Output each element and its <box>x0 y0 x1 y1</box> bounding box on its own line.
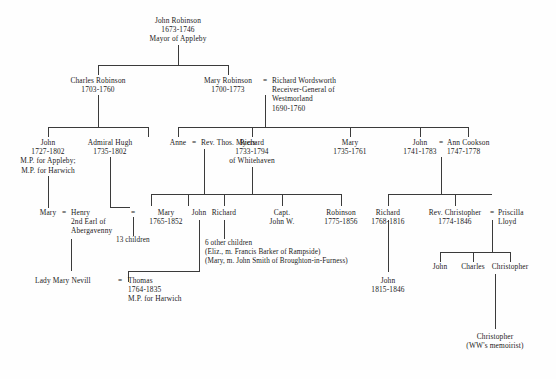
node-line: Admiral Hugh <box>88 138 133 147</box>
node-john-1741: John 1741-1783 <box>403 138 436 156</box>
connector-vertical <box>388 194 389 206</box>
connector-horizontal <box>98 65 229 66</box>
connector-vertical <box>440 252 441 262</box>
node-ann-cookson: Ann Cookson 1747-1778 <box>447 138 490 156</box>
node-line: 1741-1783 <box>403 147 436 156</box>
node-line: Thomas <box>128 276 182 285</box>
node-mary-1735: Mary 1735-1761 <box>333 138 366 156</box>
connector-vertical <box>350 127 351 137</box>
connector-vertical <box>48 176 49 208</box>
node-henry-abergavenny: Henry 2nd Earl of Abergavenny <box>71 208 112 236</box>
node-charles-c: Charles <box>461 262 485 271</box>
connector-vertical <box>455 194 456 206</box>
connector-horizontal <box>151 194 229 195</box>
node-line: 1747-1778 <box>447 147 490 156</box>
node-line: of Whitehaven <box>229 156 275 165</box>
connector-vertical <box>495 274 496 329</box>
connector-vertical <box>252 167 253 194</box>
connector-horizontal <box>48 127 149 128</box>
family-tree-diagram: John Robinson 1673-1746 Mayor of Appleby… <box>0 0 556 379</box>
node-line: M.P. for Appleby; <box>20 156 76 165</box>
node-line: Mary Robinson <box>204 76 252 85</box>
node-line: Mary <box>40 208 57 217</box>
node-thomas-1764: Thomas 1764-1835 M.P. for Harwich <box>128 276 182 304</box>
connector-vertical <box>224 220 225 239</box>
node-line: 1727-1802 <box>20 147 76 156</box>
node-line: 1690-1760 <box>272 104 336 113</box>
connector-vertical <box>98 65 99 75</box>
node-charles-robinson: Charles Robinson 1703-1760 <box>70 76 125 94</box>
node-line: Abergavenny <box>71 226 112 235</box>
connector-horizontal <box>128 271 200 272</box>
node-line: Richard <box>371 208 404 217</box>
node-line: 1673-1746 <box>150 25 207 34</box>
node-line: John <box>20 138 76 147</box>
node-line: 1815-1846 <box>371 285 404 294</box>
connector-vertical <box>224 194 225 206</box>
connector-vertical <box>252 127 253 137</box>
marriage-symbol: = <box>490 208 494 217</box>
node-richard-1733: Richard 1733-1794 of Whitehaven <box>229 138 275 166</box>
node-line: Lloyd <box>498 217 524 226</box>
node-line: (WW's memoirist) <box>466 341 523 350</box>
node-mary-1765: Mary 1765-1852 <box>149 208 182 226</box>
node-john-c: John <box>433 262 448 271</box>
node-line: John W. <box>270 217 295 226</box>
connector-vertical <box>199 220 200 271</box>
node-line: John <box>371 276 404 285</box>
marriage-symbol: = <box>62 208 66 217</box>
connector-horizontal <box>440 252 510 253</box>
node-line: 2nd Earl of <box>71 217 112 226</box>
connector-vertical <box>441 157 442 194</box>
node-line: John <box>433 262 448 271</box>
node-line: Richard <box>229 138 275 147</box>
connector-vertical <box>110 157 111 207</box>
connector-vertical <box>151 194 152 206</box>
node-line: Charles Robinson <box>70 76 125 85</box>
node-line: Charles <box>461 262 485 271</box>
node-line: Rev. Christopher <box>429 208 481 217</box>
connector-vertical <box>492 220 493 252</box>
node-richard-w: Richard <box>212 208 236 217</box>
node-line: 1735-1761 <box>333 147 366 156</box>
node-line: 1735-1802 <box>88 147 133 156</box>
node-line: Henry <box>71 208 112 217</box>
connector-horizontal <box>178 127 468 128</box>
node-robinson-1775: Robinson 1775-1856 <box>324 208 357 226</box>
node-line: 1774-1846 <box>429 217 481 226</box>
node-line: Richard <box>212 208 236 217</box>
node-line: 1765-1852 <box>149 217 182 226</box>
node-john-robinson: John Robinson 1673-1746 Mayor of Appleby <box>150 16 207 44</box>
note-thirteen-children: 13 children <box>116 236 150 245</box>
node-john-1727: John 1727-1802 M.P. for Appleby; M.P. fo… <box>20 138 76 175</box>
node-lady-mary-nevill: Lady Mary Nevill <box>35 276 91 285</box>
node-line: Receiver-General of <box>272 85 336 94</box>
connector-vertical <box>473 252 474 262</box>
node-line: Mayor of Appleby <box>150 34 207 43</box>
node-line: Priscilla <box>498 208 524 217</box>
node-anne: Anne <box>170 138 187 147</box>
connector-vertical <box>388 220 389 272</box>
node-line: M.P. for Harwich <box>128 294 182 303</box>
connector-vertical <box>71 239 72 271</box>
node-john-1815: John 1815-1846 <box>371 276 404 294</box>
node-line: Christopher <box>492 262 529 271</box>
marriage-symbol: = <box>192 138 196 147</box>
marriage-symbol: = <box>131 208 135 217</box>
connector-horizontal <box>110 207 130 208</box>
connector-vertical <box>148 127 149 137</box>
node-line: Christopher <box>466 332 523 341</box>
node-line: Ann Cookson <box>447 138 490 147</box>
connector-vertical <box>341 194 342 206</box>
connector-vertical <box>98 95 99 127</box>
node-admiral-hugh: Admiral Hugh 1735-1802 <box>88 138 133 156</box>
node-line: Richard Wordsworth <box>272 76 336 85</box>
node-line: 1764-1835 <box>128 285 182 294</box>
node-line: Anne <box>170 138 187 147</box>
note-eliz-barker: (Eliz., m. Francis Barker of Rampside) <box>205 248 321 257</box>
marriage-symbol: = <box>118 276 122 285</box>
node-christopher-c: Christopher <box>492 262 529 271</box>
node-line: Robinson <box>324 208 357 217</box>
node-line: John <box>403 138 436 147</box>
marriage-symbol: = <box>439 138 443 147</box>
